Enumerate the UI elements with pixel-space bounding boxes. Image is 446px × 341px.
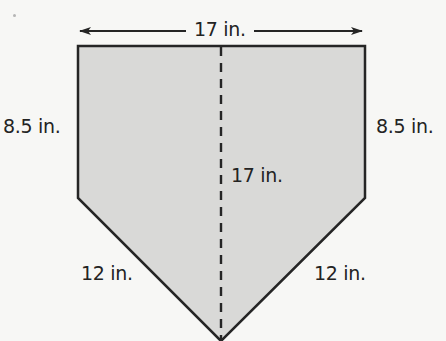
lower-right-side-label: 12 in. bbox=[314, 264, 366, 283]
center-height-label: 17 in. bbox=[231, 166, 283, 185]
right-side-label: 8.5 in. bbox=[376, 117, 434, 136]
left-side-label: 8.5 in. bbox=[3, 117, 61, 136]
home-plate-diagram bbox=[0, 0, 446, 341]
top-width-label: 17 in. bbox=[194, 20, 246, 39]
lower-left-side-label: 12 in. bbox=[81, 264, 133, 283]
